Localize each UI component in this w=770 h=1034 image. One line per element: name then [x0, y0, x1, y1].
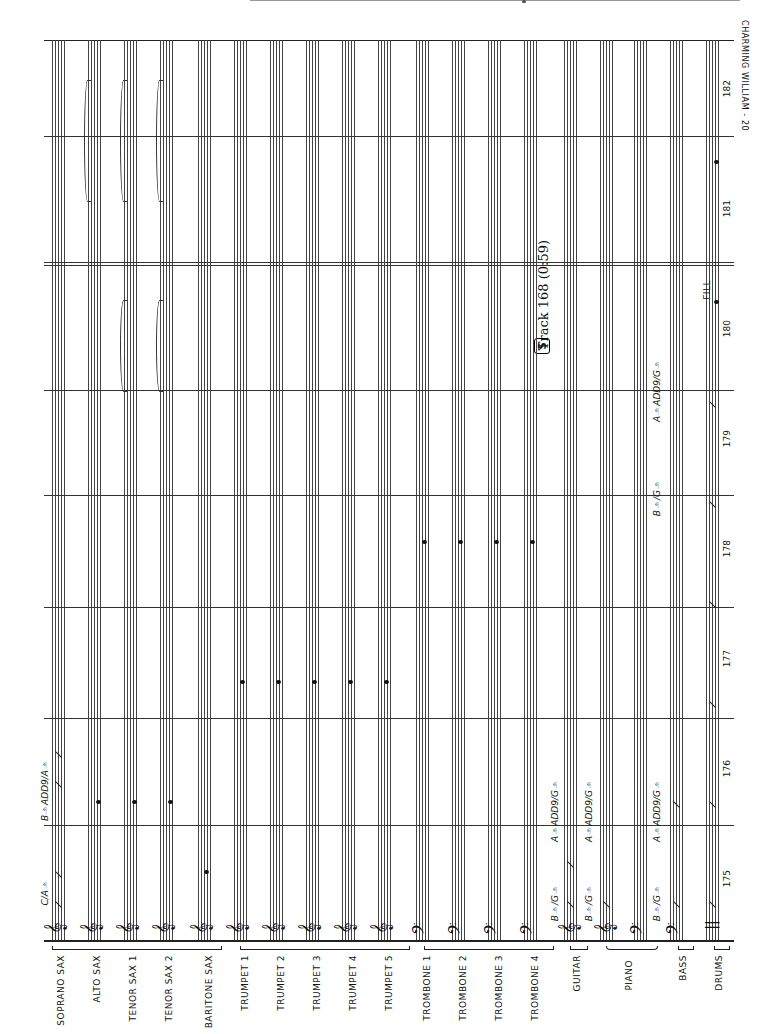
- chord-symbol: B♭/G♭: [584, 885, 594, 921]
- staff-trumpet-1: [234, 40, 247, 940]
- bass-clef-icon: 𝄢: [447, 922, 467, 935]
- measure-number: 179: [722, 430, 732, 447]
- treble-clef-icon: 𝄞: [80, 922, 100, 934]
- bass-clef-icon: 𝄢: [665, 922, 685, 935]
- piece-title: CHARMING WILLIAM - 20: [740, 20, 749, 131]
- instrument-label: TROMBONE 1: [422, 955, 432, 1021]
- barline-177: [44, 607, 734, 608]
- note: [714, 160, 719, 164]
- treble-clef-icon: 𝄞: [226, 922, 246, 934]
- note: [530, 540, 535, 544]
- tie: [84, 80, 91, 202]
- barline-176: [44, 718, 734, 719]
- note: [276, 680, 281, 684]
- bass-clef-icon: 𝄢: [629, 922, 649, 935]
- note: [714, 300, 719, 304]
- brace-piano: [606, 946, 658, 950]
- chord-symbol: B♭ADD9/A♭: [40, 760, 50, 821]
- treble-clef-icon: 𝄞: [298, 922, 318, 934]
- staff-trombone-2: [452, 40, 465, 940]
- chord-symbol: A♭ADD9/G♭: [550, 780, 560, 842]
- bass-clef-icon: 𝄢: [483, 922, 503, 935]
- staff-trumpet-4: [342, 40, 355, 940]
- staff-baritone-sax: [198, 40, 211, 940]
- chord-symbol: A♭ADD9/G♭: [652, 780, 662, 842]
- instrument-label: TRUMPET 5: [384, 955, 394, 1011]
- tie: [156, 300, 163, 392]
- instrument-label: TROMBONE 3: [494, 955, 504, 1021]
- staff-piano-treble: [600, 40, 613, 940]
- chord-symbol: B♭/G♭: [652, 480, 662, 516]
- note: [168, 800, 173, 804]
- instrument-label: DRUMS: [714, 955, 724, 991]
- instrument-label: TRUMPET 4: [348, 955, 358, 1011]
- instrument-label: PIANO: [624, 960, 634, 991]
- note: [204, 870, 209, 874]
- measure-number: 181: [722, 200, 732, 217]
- measure-number: 180: [722, 320, 732, 337]
- staff-trombone-1: [416, 40, 429, 940]
- note: [348, 680, 353, 684]
- instrument-label: GUITAR: [572, 955, 582, 991]
- bracket-trumpets: [240, 946, 410, 950]
- staff-piano-bass: [634, 40, 647, 940]
- staff-trumpet-5: [378, 40, 391, 940]
- measure-number: 175: [722, 870, 732, 887]
- barline-178: [44, 495, 734, 496]
- barline-179: [44, 390, 734, 391]
- staff-guitar: [564, 40, 577, 940]
- measure-number: 177: [722, 650, 732, 667]
- tie: [156, 80, 163, 202]
- instrument-label: BASS: [678, 955, 688, 981]
- chord-symbol: B♭/G♭: [550, 885, 560, 921]
- chord-symbol: B♭/G♭: [652, 885, 662, 921]
- note: [494, 540, 499, 544]
- tie: [120, 80, 127, 202]
- instrument-label: BARITONE SAX: [204, 955, 214, 1028]
- treble-clef-icon: 𝄞: [370, 922, 390, 934]
- chord-symbol: C/A♭: [40, 880, 50, 905]
- treble-clef-icon: 𝄞: [334, 922, 354, 934]
- barline-180: [44, 262, 734, 263]
- measure-number: 182: [722, 80, 732, 97]
- bracket-guitar: [570, 946, 588, 950]
- score-page: CHARMING WILLIAM - 20 Track 168 (0:59) S: [0, 0, 770, 1034]
- treble-clef-icon: 𝄞: [262, 922, 282, 934]
- bracket-trombones: [424, 946, 554, 950]
- staff-trombone-3: [488, 40, 501, 940]
- treble-clef-icon: 𝄞: [558, 922, 578, 934]
- tie: [120, 300, 127, 392]
- note: [458, 540, 463, 544]
- instrument-label: ALTO SAX: [92, 955, 102, 1003]
- system-bottom-line: [44, 940, 734, 942]
- page-marker: [522, 0, 526, 3]
- note: [422, 540, 427, 544]
- measure-number: 176: [722, 760, 732, 777]
- percussion-clef-icon: ||: [704, 920, 718, 929]
- note: [132, 800, 137, 804]
- bracket-drums: [714, 946, 730, 950]
- treble-clef-icon: 𝄞: [190, 922, 210, 934]
- instrument-label: TRUMPET 1: [240, 955, 250, 1011]
- note: [384, 680, 389, 684]
- staff-trumpet-2: [270, 40, 283, 940]
- instrument-label: TROMBONE 2: [458, 955, 468, 1021]
- bracket-saxes: [52, 946, 222, 950]
- staff-trombone-4: [524, 40, 537, 940]
- measure-number: 178: [722, 540, 732, 557]
- score-system: [44, 40, 734, 940]
- treble-clef-icon: 𝄞: [116, 922, 136, 934]
- note: [96, 800, 101, 804]
- note: [312, 680, 317, 684]
- treble-clef-icon: 𝄞: [594, 922, 614, 934]
- barline-181: [44, 136, 734, 137]
- instrument-label: SOPRANO SAX: [56, 955, 66, 1026]
- instrument-label: TRUMPET 2: [276, 955, 286, 1011]
- chord-symbol: A♭ADD9/G♭: [652, 360, 662, 422]
- instrument-label: TRUMPET 3: [312, 955, 322, 1011]
- bass-clef-icon: 𝄢: [411, 922, 431, 935]
- instrument-label: TENOR SAX 1: [128, 955, 138, 1021]
- instrument-label: TENOR SAX 2: [164, 955, 174, 1021]
- drum-fill-label: FILL: [702, 280, 712, 300]
- bracket-bass: [678, 946, 694, 950]
